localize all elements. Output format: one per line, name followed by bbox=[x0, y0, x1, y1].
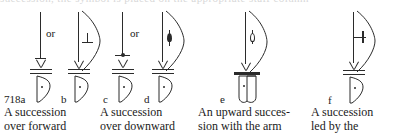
figure-a-label: 718a bbox=[4, 94, 25, 105]
figure-c-direction-triangle bbox=[118, 75, 133, 101]
figure-d-staff-bar bbox=[152, 69, 174, 74]
figure-a-staff-bar bbox=[30, 69, 52, 74]
figure-a-perpendicular-icon bbox=[35, 49, 46, 59]
figure-b-direction-triangle bbox=[74, 75, 89, 101]
figure-f: f bbox=[341, 9, 383, 103]
figure-d-direction-triangle bbox=[158, 75, 173, 101]
figure-plate: succession, the symbol is placed on the … bbox=[0, 0, 398, 139]
caption-3: An upward succes- sion with the arm bbox=[198, 105, 290, 133]
figure-c-triangle-shape bbox=[118, 75, 135, 103]
figure-e-label: e bbox=[220, 94, 225, 105]
figure-d-filled-lens-icon bbox=[167, 33, 172, 42]
figure-c: c bbox=[110, 10, 144, 102]
caption-1-line-1: A succession bbox=[4, 105, 66, 119]
caption-1: A succession over forward bbox=[4, 105, 66, 133]
figure-e-arrowhead-icon bbox=[240, 63, 251, 71]
figure-d-triangle-shape bbox=[158, 75, 175, 103]
caption-4-line-1: A succession bbox=[311, 105, 373, 119]
figure-e-stem bbox=[245, 12, 246, 64]
figure-b-label: b bbox=[61, 94, 67, 105]
caption-4-line-2: led by the bbox=[311, 119, 373, 133]
figure-b-arrowhead-icon bbox=[73, 61, 84, 69]
figure-d: d bbox=[150, 10, 190, 102]
caption-3-line-1: An upward succes- bbox=[198, 105, 290, 119]
figure-f-bar-with-stroke-icon bbox=[354, 31, 366, 43]
caption-2-line-1: A succession bbox=[100, 105, 175, 119]
figure-b-triangle-shape bbox=[74, 75, 91, 103]
caption-1-line-2: over forward bbox=[4, 119, 66, 133]
figure-e-hollow-lens-icon bbox=[250, 33, 255, 42]
figure-a-arrowhead-icon bbox=[35, 60, 46, 68]
figure-c-label: c bbox=[103, 94, 108, 105]
figure-a-triangle-shape bbox=[36, 75, 53, 103]
figure-f-triangle-shape bbox=[349, 76, 366, 104]
figure-e-prism-base bbox=[237, 75, 261, 101]
figure-c-staff-bar bbox=[112, 69, 134, 74]
figure-c-arrowhead-icon bbox=[117, 60, 128, 68]
figure-a-direction-triangle bbox=[36, 75, 51, 101]
caption-3-line-2: sion with the arm bbox=[198, 119, 290, 133]
figure-e: e bbox=[233, 8, 279, 104]
caption-2: A succession over downward bbox=[100, 105, 175, 133]
figure-f-staff-bar bbox=[343, 70, 365, 75]
figure-d-label: d bbox=[144, 94, 150, 105]
figure-c-bar-with-dot-icon bbox=[115, 52, 130, 59]
figure-d-stem bbox=[162, 12, 163, 62]
or-connector-2: or bbox=[130, 28, 139, 39]
figure-b-perpendicular-icon bbox=[82, 33, 93, 43]
figure-f-direction-triangle bbox=[349, 76, 364, 102]
or-connector-1: or bbox=[46, 28, 55, 39]
figure-b-staff-bar bbox=[68, 69, 90, 74]
caption-4: A succession led by the bbox=[311, 105, 373, 133]
figure-f-arrowhead-icon bbox=[348, 62, 359, 70]
figure-b: b bbox=[66, 10, 106, 102]
figure-e-prism-shape bbox=[237, 75, 263, 105]
figure-a: 718a bbox=[28, 10, 62, 102]
cut-off-text-sliver: succession, the symbol is placed on the … bbox=[0, 0, 398, 5]
caption-2-line-2: over downward bbox=[100, 119, 175, 133]
figure-b-stem bbox=[78, 12, 79, 62]
figure-c-stem bbox=[122, 12, 123, 56]
figure-d-arrowhead-icon bbox=[157, 61, 168, 69]
